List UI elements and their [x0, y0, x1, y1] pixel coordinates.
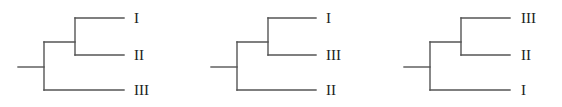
leaf-label-bottom: III [134, 82, 149, 98]
leaf-label-bottom: I [521, 82, 526, 98]
leaf-label-top: I [134, 10, 139, 26]
leaf-label-top: I [326, 10, 331, 26]
leaf-label-top: III [521, 10, 536, 26]
tree-3: III II I [404, 10, 536, 98]
leaf-label-middle: III [326, 47, 341, 63]
leaf-label-middle: II [521, 47, 531, 63]
tree-2: I III II [211, 10, 341, 98]
leaf-label-middle: II [134, 47, 144, 63]
leaf-label-bottom: II [326, 82, 336, 98]
cladogram-figure: I II III I III II III II I [0, 0, 562, 107]
tree-1: I II III [18, 10, 149, 98]
